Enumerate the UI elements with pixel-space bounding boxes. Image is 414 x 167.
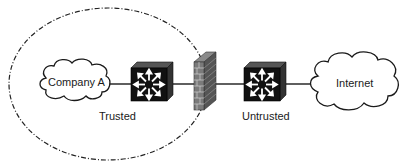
layer3-switch-icon (244, 62, 286, 101)
firewall-icon (194, 52, 216, 110)
untrusted-zone-label: Untrusted (242, 110, 290, 122)
internet-label: Internet (336, 77, 373, 89)
trusted-zone-label: Trusted (99, 110, 136, 122)
layer3-switch-icon (131, 62, 173, 101)
company-a-label: Company A (48, 76, 105, 88)
network-diagram: Company A Internet Trusted Untrusted (0, 0, 414, 167)
